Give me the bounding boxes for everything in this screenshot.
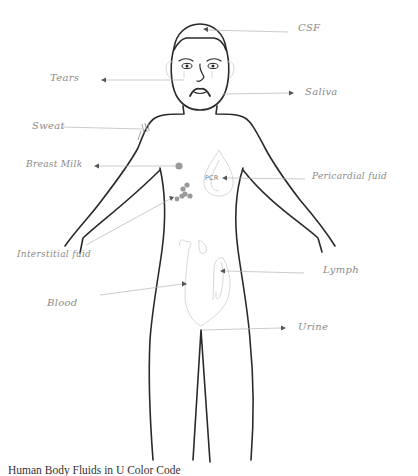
leader-lines [62,27,305,331]
label-pcr: PCR [205,174,219,182]
left-eyebrow [179,59,193,61]
left-pupil [186,65,189,68]
label-saliva: Saliva [305,86,338,97]
saliva-leader [222,93,289,94]
label-sweat: Sweat [32,120,65,131]
mouth-lower-lip [194,92,206,94]
left-outer-outline [65,106,184,246]
organ-sketches [138,123,233,326]
inner-legs [193,330,210,462]
body-outline [65,106,335,462]
urine-leader [202,328,281,330]
interstitial-dot [182,191,187,196]
tears-arrowhead [101,78,106,83]
hairline [174,38,226,50]
label-tears: Tears [50,72,79,83]
interstitial-leader [86,199,170,245]
nose [197,64,204,81]
interstitial-arrowhead [169,196,174,201]
left-torso-leg [149,168,164,460]
interstitial-dot [187,193,192,198]
interstitial-dot [175,197,180,202]
blood-arrowhead [182,281,187,287]
label-csf: CSF [298,22,320,33]
right-pupil [212,65,215,68]
right-eyebrow [207,59,221,61]
label-pericardial-fluid: Pericardial fuid [312,171,387,181]
cell-dots [175,162,193,201]
breast-milk-dot [175,162,182,169]
label-urine: Urine [298,321,328,332]
right-torso-leg [236,168,253,460]
label-lymph: Lymph [323,264,359,275]
csf-arrowhead [203,27,208,32]
head [166,24,234,110]
interstitial-dot [184,182,189,187]
label-interstitial-fluid: Interstitial fuid [17,249,91,259]
figure-caption: Human Body Fluids in U Color Code [8,464,181,476]
pericardium-sketch [204,150,233,196]
blood-leader [100,284,182,295]
urine-arrowhead [281,326,286,331]
lymph-vessel-sketch [216,262,223,299]
kidney-right-sketch [199,240,207,254]
saliva-arrowhead [289,91,294,96]
bladder-sketch [201,258,230,326]
lymph-leader [225,271,304,273]
breast-milk-arrowhead [94,164,99,169]
interstitial-dot [180,186,185,191]
pericardial-leader [227,178,305,179]
pericardial-arrowhead [222,176,227,181]
label-blood: Blood [47,297,78,308]
label-breast-milk: Breast Milk [26,159,82,169]
sweat-leader [62,127,142,129]
mouth [190,89,210,96]
